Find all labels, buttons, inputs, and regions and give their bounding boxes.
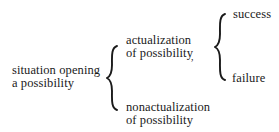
node-label: failure xyxy=(232,72,265,85)
node-nonactualization-of-possibility: nonactualization of possibility xyxy=(126,101,210,127)
node-success: success xyxy=(233,8,271,21)
node-label-line2: of possibility xyxy=(126,114,210,127)
left-curly-brace-icon xyxy=(214,13,228,81)
node-situation-opening-possibility: situation opening a possibility xyxy=(12,64,100,90)
node-label-line2: of possibility xyxy=(126,47,193,60)
node-label-line2: a possibility xyxy=(12,77,100,90)
left-curly-brace-icon xyxy=(106,45,120,111)
node-actualization-of-possibility: actualization of possibility xyxy=(126,34,193,60)
node-label: success xyxy=(233,8,271,21)
comma-mark: , xyxy=(191,52,194,62)
node-failure: failure xyxy=(232,72,265,85)
